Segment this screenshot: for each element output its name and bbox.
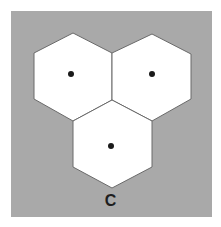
center-dot: [108, 143, 114, 149]
figure-label: C: [0, 193, 221, 209]
center-dot: [68, 71, 74, 77]
center-dot: [149, 71, 155, 77]
